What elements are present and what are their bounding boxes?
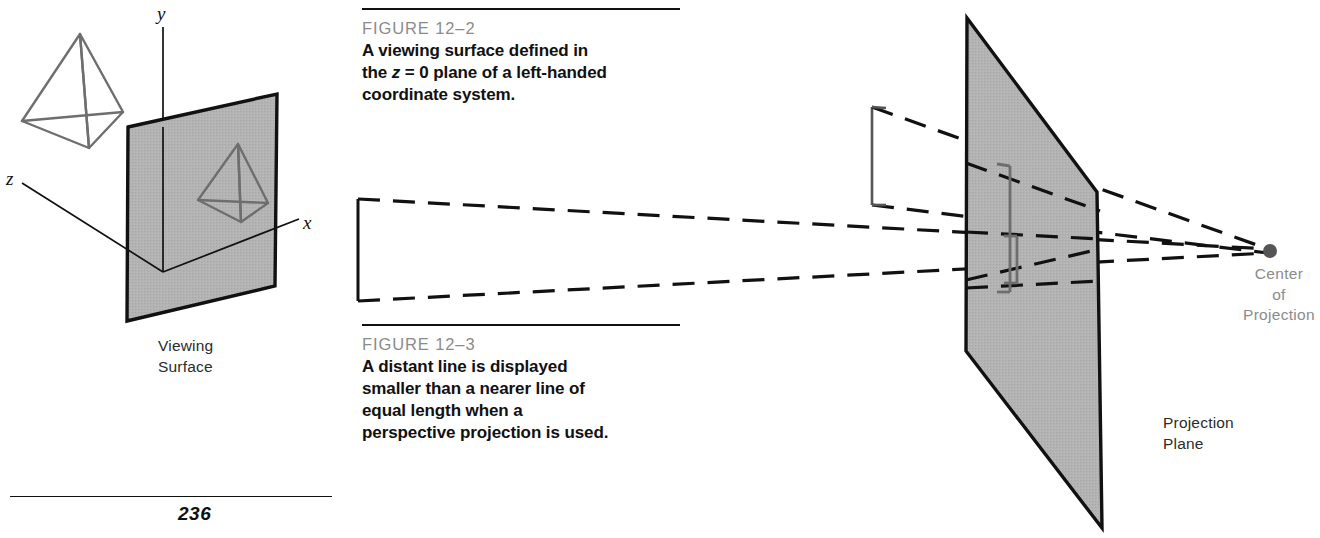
- caption-rule: [362, 324, 680, 326]
- caption-line: equal length when a: [362, 401, 523, 420]
- figure-12-2-label: FIGURE 12–2: [362, 19, 680, 38]
- axis-label-z: z: [6, 168, 13, 190]
- projector-rays-near: [358, 199, 1268, 301]
- footer-rule: [10, 496, 332, 497]
- caption-line: A viewing surface defined in: [362, 41, 588, 60]
- z-axis-line: [22, 183, 163, 272]
- axis-label-y: y: [157, 3, 165, 25]
- figure-12-3-label: FIGURE 12–3: [362, 335, 680, 354]
- caption-line: A distant line is displayed: [362, 357, 567, 376]
- projector-rays-far: [872, 107, 1268, 253]
- center-of-projection-label: Center of Projection: [1243, 264, 1315, 326]
- pyramid-projected: [198, 144, 268, 222]
- figure-12-2-caption: FIGURE 12–2 A viewing surface defined in…: [362, 8, 680, 106]
- x-axis-line: [163, 219, 299, 272]
- textbook-page: y z x Viewing Surface Projection Plane C…: [0, 0, 1320, 538]
- figure-12-2-artwork: [22, 27, 299, 321]
- axis-label-x: x: [303, 212, 311, 234]
- caption-line: the z = 0 plane of a left-handed: [362, 63, 607, 82]
- caption-line: smaller than a nearer line of: [362, 379, 585, 398]
- caption-line: coordinate system.: [362, 85, 515, 104]
- projector-rays-over-plane: [966, 163, 1100, 288]
- caption-rule: [362, 8, 680, 10]
- projection-plane: [966, 18, 1102, 528]
- figure-12-3-caption: FIGURE 12–3 A distant line is displayed …: [362, 324, 680, 444]
- far-line-projection: [1004, 236, 1017, 283]
- caption-line: perspective projection is used.: [362, 423, 608, 442]
- pyramid-3d: [22, 34, 123, 148]
- far-line-brackets: [872, 107, 886, 205]
- viewing-surface-label: Viewing Surface: [158, 336, 213, 377]
- projection-plane-label: Projection Plane: [1163, 413, 1234, 454]
- figure-12-3-caption-text: A distant line is displayed smaller than…: [362, 356, 680, 444]
- figure-12-2-caption-text: A viewing surface defined in the z = 0 p…: [362, 40, 680, 106]
- near-line-projection: [997, 164, 1010, 292]
- viewing-surface-plane: [127, 94, 277, 321]
- page-number: 236: [178, 503, 211, 525]
- center-of-projection-dot: [1263, 244, 1277, 258]
